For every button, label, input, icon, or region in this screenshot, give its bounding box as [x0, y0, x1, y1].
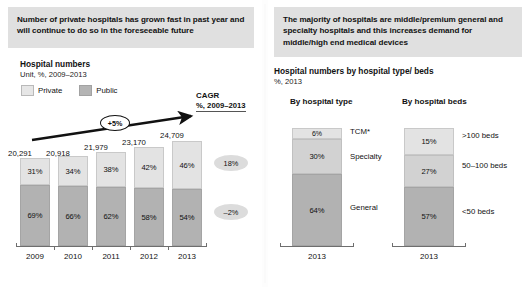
bar-segment-private-2009: 31%: [20, 158, 50, 185]
bar-2013[interactable]: 46% 54%: [172, 141, 202, 246]
x-axis-label-2010: 2010: [53, 252, 93, 261]
bar-total-2013: 24,709: [149, 131, 195, 140]
x-axis-label-2012: 2012: [129, 252, 169, 261]
cagr-badge-public: –2%: [214, 204, 248, 220]
bar-segment-public-2010: 66%: [58, 186, 88, 246]
x-axis-tick-3: [130, 246, 131, 250]
hospital-numbers-chart: 20,291 31% 69% 20,918 34% 66% 21,979 38%…: [0, 0, 262, 287]
bar-segment-private-2010: 34%: [58, 156, 88, 186]
bar-segment-over-100-beds: 15%: [404, 128, 454, 155]
x-axis-tick-4: [168, 246, 169, 250]
bar-segment-public-2013: 54%: [172, 189, 202, 246]
bar-hospital-beds-2013[interactable]: 15% 27% 57%: [404, 128, 454, 246]
category-label-over-100-beds: >100 beds: [462, 131, 499, 140]
bar-segment-under-50-beds: 57%: [404, 187, 454, 246]
cagr-badge-private: 18%: [214, 155, 248, 171]
bar-segment-private-2013: 46%: [172, 141, 202, 189]
bar-segment-50-100-beds: 27%: [404, 155, 454, 187]
x-axis-label-2011: 2011: [91, 252, 131, 261]
by-hospital-beds-chart: 15% 27% 57% >100 beds 50–100 beds <50 be…: [268, 0, 527, 287]
bar-segment-public-2012: 58%: [134, 188, 164, 246]
left-panel: Number of private hospitals has grown fa…: [0, 0, 262, 287]
right-panel: The majority of hospitals are middle/pre…: [268, 0, 527, 287]
panel-divider: [264, 4, 266, 283]
x-axis-tick-2: [92, 246, 93, 250]
bar-2010[interactable]: 34% 66%: [58, 156, 88, 246]
x-axis-tick-1: [54, 246, 55, 250]
slide-canvas: Number of private hospitals has grown fa…: [0, 0, 527, 287]
x-axis-label-2009: 2009: [15, 252, 55, 261]
bar-2011[interactable]: 38% 62%: [96, 152, 126, 246]
x-axis-label-2013: 2013: [167, 252, 207, 261]
bar-2012[interactable]: 42% 58%: [134, 147, 164, 246]
bar-segment-private-2011: 38%: [96, 152, 126, 187]
x-axis-label-beds-2013: 2013: [409, 252, 449, 261]
x-axis-line: [16, 246, 206, 247]
bar-segment-public-2009: 69%: [20, 185, 50, 246]
x-axis-cap-left: [16, 243, 17, 247]
bar-2009[interactable]: 31% 69%: [20, 158, 50, 246]
bar-segment-private-2012: 42%: [134, 147, 164, 188]
category-label-under-50-beds: <50 beds: [462, 207, 494, 216]
x-axis-cap-right: [206, 243, 207, 247]
bar-segment-public-2011: 62%: [96, 187, 126, 246]
category-label-50-100-beds: 50–100 beds: [462, 161, 507, 170]
